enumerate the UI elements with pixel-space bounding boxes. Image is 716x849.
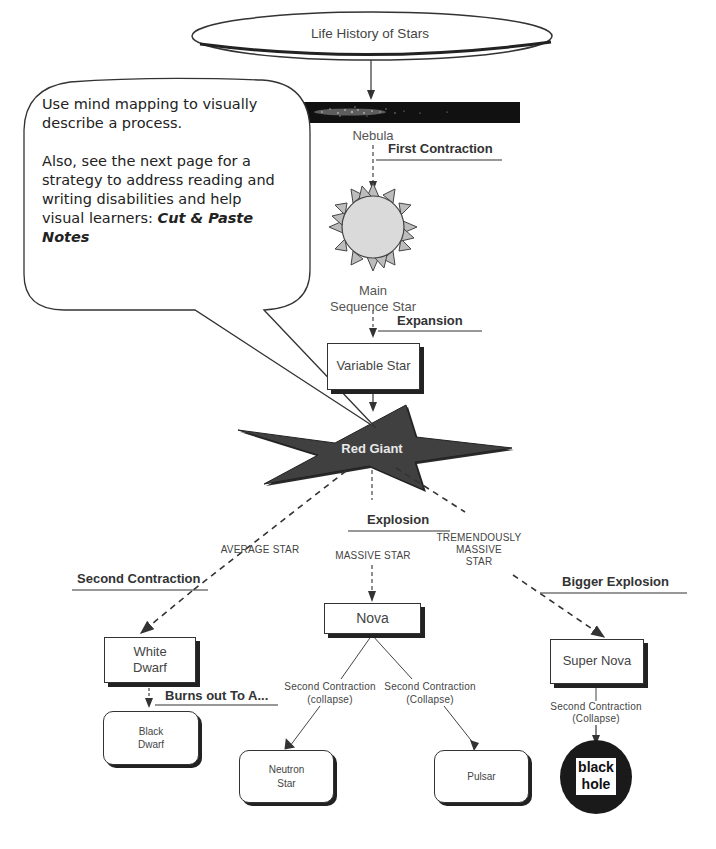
stage-expansion: Expansion	[397, 313, 463, 328]
black-dwarf-line1: Black	[139, 725, 163, 739]
neutron-star-line2: Star	[277, 777, 295, 791]
super-nova-label: Super Nova	[563, 653, 632, 669]
nova-left-line2: (collapse)	[280, 693, 380, 706]
neutron-star-line1: Neutron	[269, 763, 305, 777]
node-pulsar[interactable]: Pulsar	[434, 750, 529, 803]
node-black-hole[interactable]: black hole	[572, 759, 620, 793]
nova-right-line1: Second Contraction	[380, 680, 480, 693]
star-life-cycle-diagram: Life History of Stars Nebula First Contr…	[0, 0, 716, 849]
node-white-dwarf[interactable]: White Dwarf	[104, 637, 196, 683]
main-sequence-star-label: Main Sequence Star	[318, 283, 428, 315]
branch-massive-star: MASSIVE STAR	[330, 550, 416, 561]
node-variable-star[interactable]: Variable Star	[327, 343, 420, 390]
stage-bigger-explosion: Bigger Explosion	[562, 574, 669, 589]
stage-second-contraction: Second Contraction	[77, 571, 201, 586]
callout-paragraph-2: Also, see the next page for a strategy t…	[42, 152, 282, 247]
pulsar-label: Pulsar	[467, 770, 495, 784]
edge-label-supernova-blackhole: Second Contraction (Collapse)	[538, 701, 654, 725]
callout-paragraph-1: Use mind mapping to visually describe a …	[42, 95, 282, 133]
node-neutron-star[interactable]: Neutron Star	[239, 750, 334, 803]
stage-first-contraction: First Contraction	[388, 141, 493, 156]
callout-text: Use mind mapping to visually describe a …	[42, 95, 282, 266]
supernova-edge-line1: Second Contraction	[538, 701, 654, 713]
edge-label-nova-pulsar: Second Contraction (Collapse)	[380, 680, 480, 706]
node-super-nova[interactable]: Super Nova	[550, 639, 644, 684]
white-dwarf-line1: White	[133, 644, 166, 660]
black-dwarf-line2: Dwarf	[138, 738, 164, 752]
white-dwarf-line2: Dwarf	[133, 660, 167, 676]
supernova-edge-line2: (Collapse)	[538, 713, 654, 725]
tremendously-line3: STAR	[434, 556, 524, 568]
black-hole-line1: black	[572, 759, 620, 776]
branch-tremendously-massive-star: TREMENDOUSLY MASSIVE STAR	[434, 532, 524, 568]
stage-burns-out: Burns out To A...	[165, 688, 268, 703]
main-sequence-star-icon	[329, 183, 417, 271]
black-hole-line2: hole	[572, 776, 620, 793]
variable-star-label: Variable Star	[336, 358, 410, 374]
node-nova[interactable]: Nova	[324, 603, 421, 634]
nova-label: Nova	[356, 610, 389, 628]
branch-average-star: AVERAGE STAR	[218, 544, 302, 555]
stage-explosion: Explosion	[367, 512, 429, 527]
red-giant-label: Red Giant	[322, 441, 422, 456]
main-sequence-line1: Main	[318, 283, 428, 299]
tremendously-line2: MASSIVE	[434, 544, 524, 556]
diagram-title: Life History of Stars	[240, 26, 500, 41]
tremendously-line1: TREMENDOUSLY	[434, 532, 524, 544]
nova-right-line2: (Collapse)	[380, 693, 480, 706]
edge-label-nova-neutron: Second Contraction (collapse)	[280, 680, 380, 706]
node-black-dwarf[interactable]: Black Dwarf	[103, 711, 199, 765]
nova-left-line1: Second Contraction	[280, 680, 380, 693]
